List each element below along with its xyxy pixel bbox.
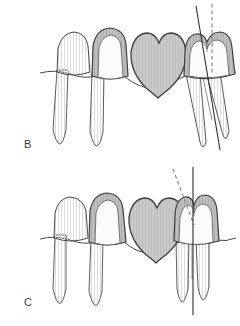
pontic-body-b: [131, 33, 186, 98]
root-molar-mesial-b: [186, 74, 206, 147]
tooth-premolar-uncrowned-b: [57, 32, 90, 75]
root-premolar-left-c: [53, 235, 66, 304]
root-premolar-abutment-c: [89, 237, 103, 306]
root-premolar-left-b: [53, 70, 68, 144]
root-molar-distal-c: [196, 239, 209, 300]
panel-label-b: B: [24, 138, 32, 150]
tooth-premolar-abutment-b: [92, 28, 128, 79]
tooth-premolar-uncrowned-c: [54, 197, 88, 241]
panel-b: [0, 0, 240, 163]
crown-inner-molar-c: [179, 204, 213, 245]
tooth-molar-abutment-c: [174, 195, 219, 245]
dental-figure: B: [0, 0, 240, 326]
panel-label-c: C: [24, 296, 32, 308]
tooth-premolar-abutment-c: [89, 193, 126, 245]
roots-group-c: [53, 235, 209, 306]
root-molar-distal-b: [206, 72, 229, 139]
tooth-molar-abutment-b: [184, 32, 235, 79]
panel-c: [0, 163, 240, 326]
crown-inner-premolar-c: [95, 200, 120, 245]
crown-inner-molar-b: [189, 40, 229, 78]
crown-inner-premolar-b: [98, 35, 123, 79]
root-premolar-abutment-b: [90, 72, 104, 146]
root-molar-mesial-c: [176, 239, 189, 302]
pontic-b: [131, 33, 186, 98]
